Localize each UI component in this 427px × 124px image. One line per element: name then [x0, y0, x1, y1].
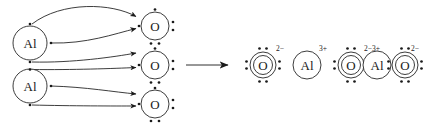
ion-charge: 2−	[276, 44, 284, 53]
ion-symbol: Al	[301, 58, 314, 73]
lone-pair-bottom-right	[265, 80, 268, 83]
lone-pair-bottom-right	[407, 80, 410, 83]
valence-dot-right	[50, 42, 53, 45]
valence-dot-right-upper	[172, 60, 175, 63]
lone-pair-top-left	[346, 47, 349, 50]
lone-pair-bottom-right	[353, 80, 356, 83]
atom-symbol: O	[150, 19, 159, 34]
electron-arrow-1	[32, 6, 136, 24]
reactant-oxygen-atom-2: O	[138, 47, 175, 84]
valence-dot-right-upper	[172, 21, 175, 24]
valence-dot-top	[154, 87, 157, 90]
lone-pair-left-upper	[333, 60, 336, 63]
valence-dot-bottom-left	[150, 81, 153, 84]
lone-pair-bottom-left	[400, 80, 403, 83]
valence-dot-top	[154, 47, 157, 50]
reactant-oxygen-atom-3: O	[138, 87, 175, 123]
valence-dot-right	[50, 85, 53, 88]
lone-pair-right-upper	[420, 60, 423, 63]
lone-pair-bottom-left	[346, 80, 349, 83]
lone-pair-right-lower	[420, 67, 423, 70]
valence-dot-top	[29, 23, 32, 26]
lone-pair-bottom-left	[258, 80, 261, 83]
valence-dot-top	[29, 68, 32, 71]
valence-dot-bottom-left	[150, 42, 153, 45]
electron-transfer-arrow-group	[32, 6, 136, 106]
valence-dot-right-lower	[172, 68, 175, 71]
valence-dot-left	[138, 25, 141, 28]
lone-pair-top-right	[265, 47, 268, 50]
valence-dot-left	[138, 103, 141, 106]
ion-charge: 2−	[364, 44, 372, 53]
atom-symbol: O	[150, 97, 159, 112]
product-aluminum-ion-1: Al 3+	[293, 44, 327, 79]
ion-symbol: O	[258, 58, 267, 73]
valence-dot-right-lower	[172, 29, 175, 32]
lone-pair-left-lower	[245, 67, 248, 70]
lone-pair-left-lower	[333, 67, 336, 70]
ion-charge: 3+	[319, 44, 327, 53]
lone-pair-right-upper	[278, 60, 281, 63]
electron-arrow-3	[32, 53, 136, 62]
valence-dot-right-lower	[172, 107, 175, 110]
reactant-aluminum-atom-1: Al	[13, 23, 52, 64]
lone-pair-left-upper	[245, 60, 248, 63]
ion-symbol: Al	[371, 58, 384, 73]
lone-pair-top-left	[400, 47, 403, 50]
valence-dot-bottom-right	[158, 42, 161, 45]
ion-symbol: O	[400, 58, 409, 73]
valence-dot-bottom	[29, 104, 32, 107]
product-oxide-ion-1: O 2−	[245, 44, 284, 83]
atom-symbol: O	[150, 58, 159, 73]
electron-arrow-4	[32, 68, 136, 70]
electron-arrow-6	[32, 105, 136, 106]
lewis-dot-reaction-diagram: Al Al O O	[0, 0, 427, 124]
valence-dot-top	[154, 8, 157, 11]
atom-symbol: Al	[24, 36, 37, 51]
ion-symbol: O	[346, 58, 355, 73]
valence-dot-bottom-left	[150, 120, 153, 123]
diagram-canvas: Al Al O O	[0, 0, 427, 124]
valence-dot-bottom	[29, 61, 32, 64]
ion-charge: 3+	[372, 44, 380, 53]
lone-pair-top-left	[258, 47, 261, 50]
lone-pair-left-upper	[387, 60, 390, 63]
valence-dot-left	[138, 64, 141, 67]
valence-dot-bottom-right	[158, 81, 161, 84]
product-oxide-ion-3: O 2−	[387, 44, 423, 83]
lone-pair-left-lower	[387, 67, 390, 70]
ion-charge: 2−	[411, 44, 419, 53]
electron-arrow-5	[51, 86, 136, 94]
lone-pair-top-right	[407, 47, 410, 50]
atom-symbol: Al	[24, 79, 37, 94]
lone-pair-right-lower	[278, 67, 281, 70]
electron-arrow-2	[51, 29, 136, 44]
valence-dot-right-upper	[172, 99, 175, 102]
valence-dot-bottom-right	[158, 120, 161, 123]
reactant-aluminum-atom-2: Al	[13, 68, 52, 106]
reactant-oxygen-atom-1: O	[138, 8, 175, 45]
lone-pair-top-right	[353, 47, 356, 50]
